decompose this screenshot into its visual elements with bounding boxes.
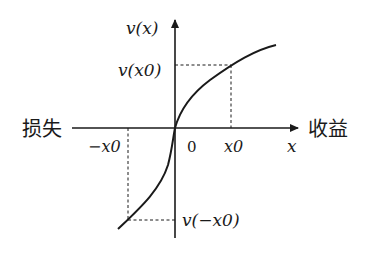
loss-label: 损失 [22,117,62,141]
origin-label: 0 [187,138,197,156]
v-neg-x0-label: v(−x0) [182,210,240,230]
v-x0-label: v(x0) [118,60,161,80]
x-axis-label: x [287,136,297,156]
gain-label: 收益 [308,117,348,141]
y-axis-label: v(x) [126,18,158,38]
x0-label: x0 [224,137,243,156]
neg-x0-label: −x0 [88,137,121,156]
value-function-diagram: 损失 收益 x v(x) 0 x0 −x0 v(x0) v(−x0) [0,0,369,259]
